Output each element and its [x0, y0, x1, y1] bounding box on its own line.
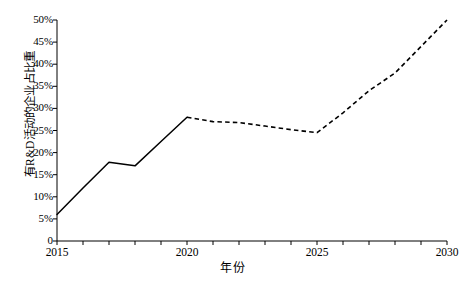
- figure-caption: [0, 282, 465, 289]
- x-axis-ticks: [57, 241, 447, 245]
- y-axis-tick-label-5: 5%: [19, 213, 53, 224]
- data-line-forecast: [187, 20, 447, 133]
- data-line-historical: [57, 117, 187, 214]
- axes-group: [57, 20, 447, 241]
- y-axis-tick-label-0: 0: [19, 235, 53, 246]
- x-axis-tick-label-2030: 2030: [417, 246, 465, 259]
- x-axis-tick-label-group: 2015202020252030: [0, 246, 465, 262]
- x-axis-tick-label-2015: 2015: [27, 246, 87, 259]
- y-axis-ticks: [53, 20, 57, 241]
- figure-container: 05%10%15%20%25%30%35%40%45%50% 201520202…: [0, 0, 465, 291]
- x-axis-tick-label-2025: 2025: [287, 246, 347, 259]
- x-axis-title: 年份: [0, 261, 465, 275]
- y-axis-title: 有R&D活动的企业占比重: [24, 24, 36, 204]
- x-axis-tick-label-2020: 2020: [157, 246, 217, 259]
